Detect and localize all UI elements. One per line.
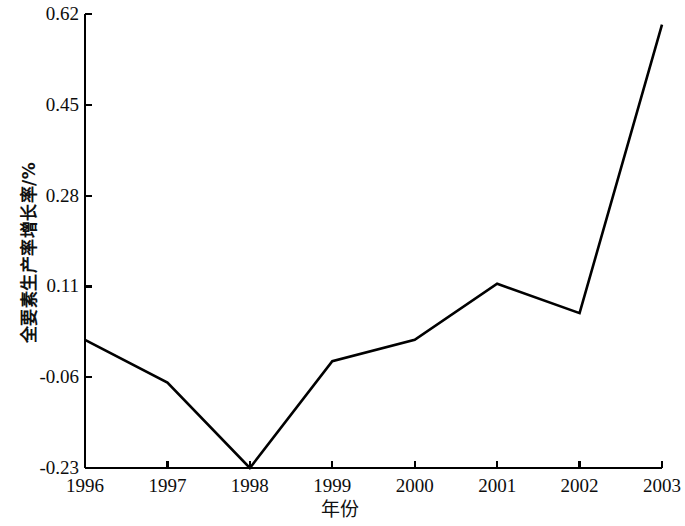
- y-tick-label: 0.62: [0, 4, 79, 23]
- x-tick-label: 1998: [205, 476, 295, 495]
- y-axis-title: 全要素生产率增长率/%: [20, 128, 39, 378]
- data-series-line: [85, 25, 662, 468]
- axis-lines: [85, 14, 662, 468]
- y-tick-label: 0.45: [0, 95, 79, 114]
- x-tick-label: 1997: [122, 476, 212, 495]
- x-axis-title: 年份: [0, 499, 679, 520]
- x-tick-label: 2000: [370, 476, 460, 495]
- x-tick-label: 2001: [452, 476, 542, 495]
- x-tick-label: 1996: [40, 476, 130, 495]
- y-tick-label: -0.06: [0, 367, 79, 386]
- x-tick-label: 2003: [617, 476, 685, 495]
- y-tick-label: 0.28: [0, 186, 79, 205]
- y-tick-label: 0.11: [0, 276, 79, 295]
- x-tick-label: 2002: [535, 476, 625, 495]
- x-tick-label: 1999: [287, 476, 377, 495]
